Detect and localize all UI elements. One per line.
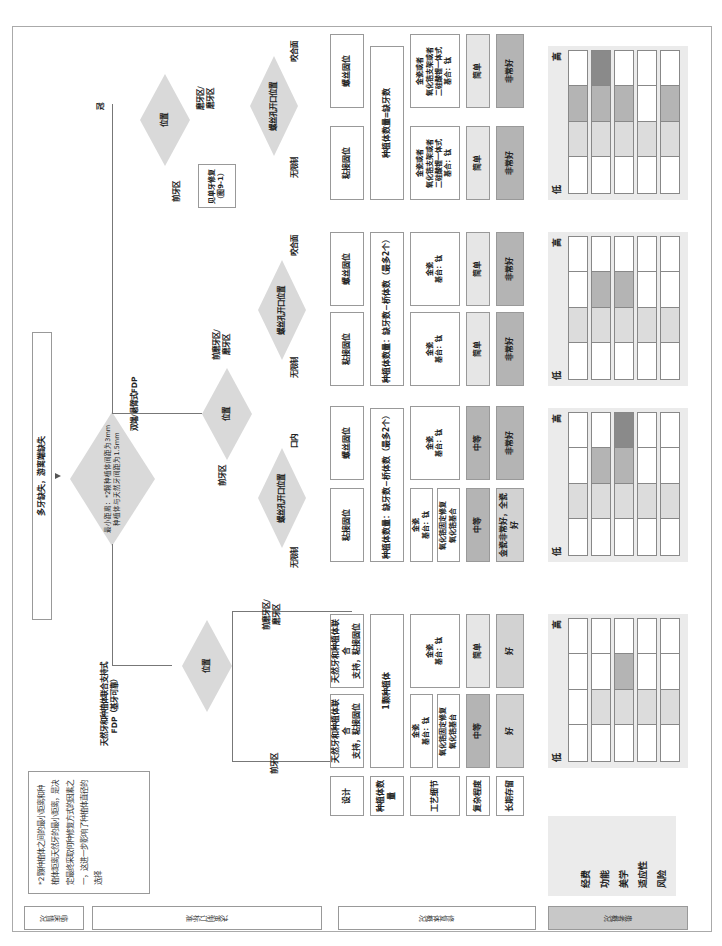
scale-cell bbox=[592, 690, 610, 726]
scale-cell bbox=[661, 619, 679, 655]
patient-factor: 适应性 bbox=[636, 861, 649, 888]
scale-cell bbox=[592, 655, 610, 691]
tech-detail-box: 金瓷或者 氧化锆支架或者 二硅酸锂一体式 基合：钛 bbox=[410, 34, 460, 108]
edge-label-occlusal: 咬合面 bbox=[290, 41, 300, 62]
diamond-label: 螺丝孔开口位置 bbox=[277, 474, 287, 523]
scale-cell bbox=[592, 308, 610, 344]
scale-cell bbox=[569, 308, 587, 344]
branch-crown-label: 冠 bbox=[96, 103, 106, 110]
diamond-label: 螺丝孔开口位置 bbox=[277, 286, 287, 335]
design-box-label: 粘接固位 bbox=[342, 333, 353, 365]
edge-label-unrestricted: 无限制 bbox=[290, 157, 300, 178]
scale-bar bbox=[591, 50, 611, 194]
edge-label-unrestricted: 无限制 bbox=[290, 547, 300, 568]
scale-bar bbox=[568, 50, 588, 194]
implant-count-box: 种植体数量：缺牙数−桥体数（最多2个） bbox=[370, 232, 404, 386]
branch-combined-label: 天然牙和种植体联合支持式 FDP（基牙可靠） bbox=[100, 662, 120, 746]
scale-cell bbox=[638, 690, 656, 726]
scale-cell bbox=[661, 158, 679, 194]
design-box: 粘接固位 bbox=[330, 126, 364, 200]
scale-cell bbox=[592, 87, 610, 123]
scale-cell bbox=[661, 308, 679, 344]
tech-detail-label: 氧化锆固定修复 氧化锆基合 bbox=[439, 501, 458, 550]
scale-cell bbox=[569, 122, 587, 158]
patient-factor: 风险 bbox=[655, 861, 668, 888]
scale-cell bbox=[661, 690, 679, 726]
scale-chart: 高低 bbox=[548, 46, 688, 200]
screw-access-diamond-b: 螺丝孔开口位置 bbox=[258, 260, 306, 360]
scale-bar bbox=[614, 618, 634, 762]
label: 患者概况 bbox=[604, 913, 632, 923]
scale-cell bbox=[638, 655, 656, 691]
scale-high-label: 高 bbox=[552, 414, 564, 423]
scale-low-label: 低 bbox=[552, 753, 564, 762]
scale-cell bbox=[661, 726, 679, 762]
complexity-box-label: 中等 bbox=[473, 517, 484, 533]
patient-factors-legend: 经费功能美学适应性风险 bbox=[548, 816, 676, 896]
longterm-box-label: 非常好 bbox=[505, 431, 516, 455]
tech-detail-box: 氧化锆固定修复 氧化锆基合 bbox=[437, 488, 460, 562]
longterm-box-label: 非常好 bbox=[505, 59, 516, 83]
complexity-box: 中等 bbox=[466, 406, 490, 480]
label: 种植体数量 bbox=[376, 779, 398, 813]
connector bbox=[112, 413, 202, 414]
row-label-longterm: 长期存留 bbox=[496, 776, 524, 816]
scale-cell bbox=[615, 413, 633, 449]
longterm-box: 非常好 bbox=[496, 232, 524, 306]
scale-cell bbox=[615, 308, 633, 344]
scale-cell bbox=[569, 413, 587, 449]
scale-cell bbox=[661, 449, 679, 485]
label: 决策制订标准 bbox=[186, 913, 228, 923]
longterm-box: 好 bbox=[496, 614, 524, 688]
scale-cell bbox=[638, 449, 656, 485]
patient-factor: 功能 bbox=[598, 861, 611, 888]
implant-count-label: 种植体数量：缺牙数−桥体数（最多2个） bbox=[382, 235, 393, 383]
scale-cell bbox=[661, 484, 679, 520]
tech-detail-box: 金瓷 基台：钛 bbox=[410, 488, 433, 562]
tech-detail-label: 金瓷 基台：钛 bbox=[426, 335, 445, 363]
design-box-label: 粘接固位 bbox=[342, 509, 353, 541]
implant-count-box: 种植体数量=缺牙数 bbox=[370, 46, 404, 200]
scale-cell bbox=[661, 87, 679, 123]
scale-cell bbox=[592, 273, 610, 309]
scale-chart: 高低 bbox=[548, 408, 688, 562]
scale-cell bbox=[661, 413, 679, 449]
design-box: 螺丝固位 bbox=[330, 232, 364, 306]
scale-cell bbox=[638, 308, 656, 344]
scale-bar bbox=[660, 618, 680, 762]
longterm-box: 金瓷非常好，全瓷好 bbox=[496, 488, 524, 562]
scale-cell bbox=[592, 51, 610, 87]
tech-detail-label: 金瓷 基台：钛 bbox=[426, 255, 445, 283]
scale-cell bbox=[592, 122, 610, 158]
scale-cell bbox=[592, 344, 610, 380]
scale-cell bbox=[661, 520, 679, 556]
longterm-box: 非常好 bbox=[496, 406, 524, 480]
scale-cell bbox=[615, 158, 633, 194]
tech-detail-label: 金瓷或者 氧化锆支架或者 二硅酸锂一体式 基合：钛 bbox=[416, 47, 454, 96]
implant-count-label: 种植体数量：缺牙数−桥体数（最多2个） bbox=[382, 411, 393, 559]
complexity-box: 中等 bbox=[466, 488, 490, 562]
complexity-box-label: 简单 bbox=[473, 155, 484, 171]
design-box-label: 螺丝固位 bbox=[342, 55, 353, 87]
connector bbox=[112, 544, 113, 666]
scale-bar bbox=[591, 618, 611, 762]
scale-low-label: 低 bbox=[552, 371, 564, 380]
main-decision-diamond: 最小距离：*2颗种植体间距为3mm 种植体与天然牙间距为1.5mm bbox=[70, 412, 155, 546]
complexity-box: 简单 bbox=[466, 312, 490, 386]
label: 工艺细节 bbox=[430, 780, 441, 812]
edge-label-premolar: 前磨牙区/ 磨牙区 bbox=[212, 329, 232, 360]
complexity-box: 简单 bbox=[466, 34, 490, 108]
longterm-box-label: 金瓷非常好，全瓷好 bbox=[499, 491, 521, 559]
complexity-box: 中等 bbox=[466, 694, 490, 768]
implant-count-box: 种植体数量：缺牙数−桥体数（最多2个） bbox=[370, 408, 404, 562]
scale-bar bbox=[614, 236, 634, 380]
scale-cell bbox=[592, 726, 610, 762]
tech-detail-label: 氧化锆固定修复 氧化锆基台 bbox=[439, 707, 458, 756]
scale-cell bbox=[569, 690, 587, 726]
scale-low-label: 低 bbox=[552, 185, 564, 194]
note-text: *2颗种植体之间的最小距离和种植体距离天然牙的最小距离，是决定最终采取何种修复方… bbox=[37, 780, 103, 885]
scale-high-label: 高 bbox=[552, 52, 564, 61]
scale-cell bbox=[638, 51, 656, 87]
diamond-label: 位置 bbox=[222, 407, 232, 421]
scale-cell bbox=[615, 122, 633, 158]
